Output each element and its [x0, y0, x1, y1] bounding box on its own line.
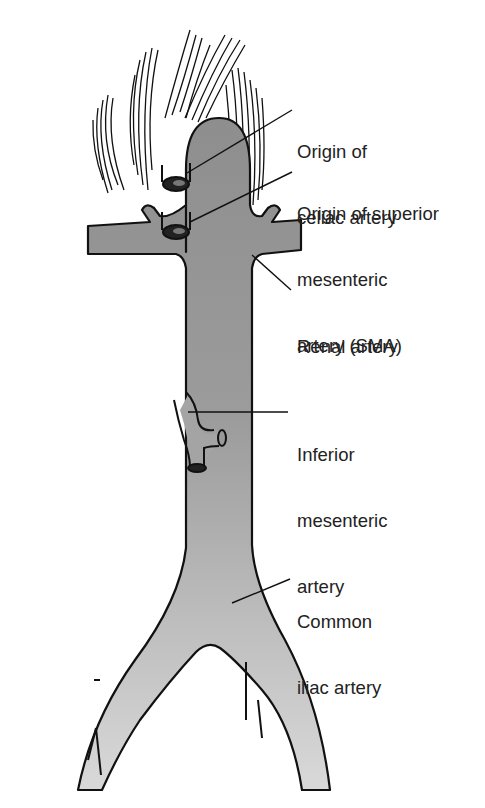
- label-renal-artery: Renal artery: [297, 292, 398, 380]
- label-line: iliac artery: [297, 677, 381, 699]
- label-line: Common: [297, 611, 381, 633]
- label-line: Origin of superior: [297, 203, 439, 225]
- aorta-diagram: [0, 0, 485, 808]
- label-line: Inferior: [297, 444, 387, 466]
- label-line: mesenteric: [297, 510, 387, 532]
- label-line: mesenteric: [297, 269, 439, 291]
- label-line: Renal artery: [297, 336, 398, 358]
- label-common-iliac-artery: Common iliac artery: [297, 567, 381, 721]
